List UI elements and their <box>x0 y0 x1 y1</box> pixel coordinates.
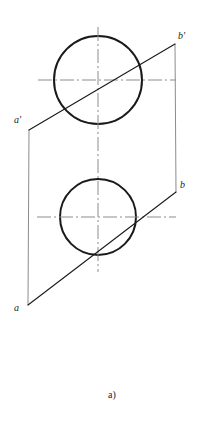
line-segment-ab-top-view <box>28 192 176 305</box>
vertex-label-a-prime: a′ <box>14 115 21 125</box>
plane-edge-right-vertical <box>175 44 176 192</box>
vertex-label-b: b <box>180 180 185 190</box>
technical-drawing-figure: a′ b′ b a a) <box>0 0 197 427</box>
drawing-canvas <box>0 0 197 427</box>
line-segment-ab-front-view <box>29 44 175 130</box>
vertex-label-a: a <box>14 303 19 313</box>
plane-edge-left-vertical <box>28 130 29 305</box>
vertex-label-b-prime: b′ <box>178 31 185 41</box>
figure-caption: a) <box>108 390 116 400</box>
